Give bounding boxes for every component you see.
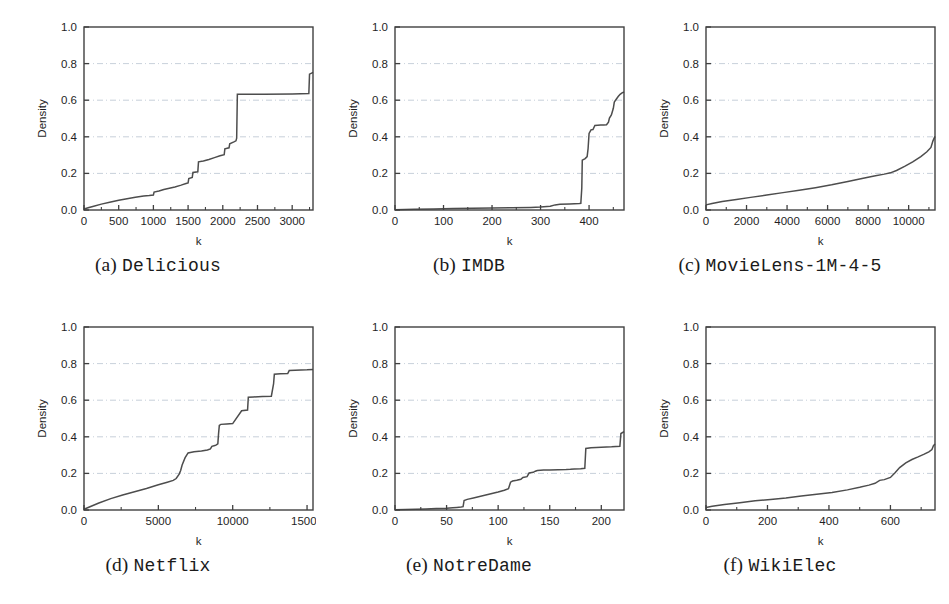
y-tick-label: 0.6 — [61, 394, 77, 406]
x-axis-title: k — [507, 235, 513, 247]
y-tick-label: 0.4 — [683, 131, 700, 143]
x-tick-label: 100 — [489, 515, 508, 527]
caption-index: (e) — [406, 554, 428, 575]
caption-dataset-name: MovieLens-1M-4-5 — [705, 256, 881, 276]
y-tick-label: 1.0 — [61, 21, 77, 33]
caption-dataset-name: NotreDame — [433, 556, 532, 576]
subplot-caption-b: (b) IMDB — [311, 252, 627, 279]
y-tick-label: 0.4 — [372, 431, 389, 443]
x-axis-title: k — [507, 535, 513, 547]
y-tick-label: 0.0 — [372, 204, 388, 216]
y-tick-label: 0.6 — [372, 394, 388, 406]
x-axis-title: k — [196, 235, 202, 247]
x-tick-label: 300 — [531, 215, 550, 227]
x-axis-title: k — [818, 235, 824, 247]
x-tick-label: 0 — [703, 515, 709, 527]
y-tick-label: 0.0 — [683, 204, 699, 216]
caption-dataset-name: WikiElec — [748, 556, 836, 576]
y-tick-label: 0.4 — [683, 431, 700, 443]
x-tick-label: 200 — [482, 215, 501, 227]
x-tick-label: 5000 — [146, 515, 172, 527]
plot-area-e: 0.00.20.40.60.81.0050100150200kDensity — [311, 300, 627, 550]
x-tick-label: 500 — [109, 215, 128, 227]
y-axis-title: Density — [36, 99, 48, 138]
subplot-caption-a: (a) Delicious — [0, 252, 316, 279]
y-tick-label: 0.2 — [372, 167, 388, 179]
caption-index: (b) — [433, 254, 456, 275]
x-tick-label: 1500 — [175, 215, 201, 227]
y-tick-label: 1.0 — [61, 321, 77, 333]
caption-index: (a) — [95, 254, 117, 275]
x-axis-title: k — [196, 535, 202, 547]
subplot-panel-b: 0.00.20.40.60.81.00100200300400kDensity(… — [311, 0, 627, 302]
y-tick-label: 1.0 — [372, 21, 388, 33]
y-tick-label: 0.8 — [683, 58, 699, 70]
y-tick-label: 0.2 — [372, 467, 388, 479]
y-tick-label: 0.8 — [61, 358, 77, 370]
y-tick-label: 0.2 — [683, 167, 699, 179]
y-tick-label: 0.8 — [61, 58, 77, 70]
y-tick-label: 0.8 — [372, 58, 388, 70]
y-tick-label: 0.6 — [372, 94, 388, 106]
x-tick-label: 10000 — [893, 215, 925, 227]
x-tick-label: 2500 — [245, 215, 271, 227]
x-tick-label: 1000 — [141, 215, 167, 227]
caption-dataset-name: Netflix — [134, 556, 211, 576]
caption-index: (d) — [105, 554, 128, 575]
y-axis-title: Density — [36, 399, 48, 438]
y-axis-title: Density — [347, 399, 359, 438]
x-tick-label: 0 — [392, 515, 398, 527]
y-tick-label: 0.0 — [61, 204, 77, 216]
subplot-panel-e: 0.00.20.40.60.81.0050100150200kDensity(e… — [311, 300, 627, 602]
x-tick-label: 50 — [440, 515, 453, 527]
y-tick-label: 0.4 — [372, 131, 389, 143]
subplot-caption-f: (f) WikiElec — [622, 552, 938, 579]
x-tick-label: 150 — [540, 515, 559, 527]
y-tick-label: 0.2 — [683, 467, 699, 479]
caption-index: (c) — [679, 254, 701, 275]
y-tick-label: 0.6 — [61, 94, 77, 106]
y-tick-label: 0.0 — [683, 504, 699, 516]
x-tick-label: 2000 — [210, 215, 236, 227]
y-tick-label: 1.0 — [683, 21, 699, 33]
y-tick-label: 0.2 — [61, 167, 77, 179]
x-tick-label: 0 — [703, 215, 709, 227]
subplot-caption-d: (d) Netflix — [0, 552, 316, 579]
subplot-panel-c: 0.00.20.40.60.81.00200040006000800010000… — [622, 0, 938, 302]
x-tick-label: 8000 — [855, 215, 881, 227]
y-tick-label: 0.0 — [61, 504, 77, 516]
y-tick-label: 0.4 — [61, 431, 78, 443]
x-tick-label: 400 — [579, 215, 598, 227]
plot-area-b: 0.00.20.40.60.81.00100200300400kDensity — [311, 0, 627, 250]
x-tick-label: 200 — [592, 515, 611, 527]
figure-density-vs-k: 0.00.20.40.60.81.00500100015002000250030… — [0, 0, 949, 604]
x-tick-label: 10000 — [217, 515, 249, 527]
x-tick-label: 400 — [819, 515, 838, 527]
y-tick-label: 0.8 — [372, 358, 388, 370]
plot-area-f: 0.00.20.40.60.81.00200400600kDensity — [622, 300, 938, 550]
subplot-panel-d: 0.00.20.40.60.81.0050001000015000kDensit… — [0, 300, 316, 602]
plot-area-d: 0.00.20.40.60.81.0050001000015000kDensit… — [0, 300, 316, 550]
caption-dataset-name: IMDB — [461, 256, 505, 276]
subplot-caption-c: (c) MovieLens-1M-4-5 — [622, 252, 938, 279]
x-tick-label: 0 — [81, 515, 87, 527]
x-tick-label: 0 — [392, 215, 398, 227]
y-tick-label: 1.0 — [372, 321, 388, 333]
y-tick-label: 0.8 — [683, 358, 699, 370]
x-tick-label: 4000 — [774, 215, 800, 227]
y-axis-title: Density — [658, 399, 670, 438]
x-tick-label: 100 — [434, 215, 453, 227]
subplot-panel-f: 0.00.20.40.60.81.00200400600kDensity(f) … — [622, 300, 938, 602]
y-tick-label: 0.0 — [372, 504, 388, 516]
x-tick-label: 2000 — [734, 215, 760, 227]
plot-area-c: 0.00.20.40.60.81.00200040006000800010000… — [622, 0, 938, 250]
x-tick-label: 200 — [758, 515, 777, 527]
x-axis-title: k — [818, 535, 824, 547]
y-axis-title: Density — [347, 99, 359, 138]
y-axis-title: Density — [658, 99, 670, 138]
x-tick-label: 3000 — [279, 215, 305, 227]
y-tick-label: 0.6 — [683, 394, 699, 406]
subplot-caption-e: (e) NotreDame — [311, 552, 627, 579]
caption-index: (f) — [724, 554, 743, 575]
y-tick-label: 1.0 — [683, 321, 699, 333]
